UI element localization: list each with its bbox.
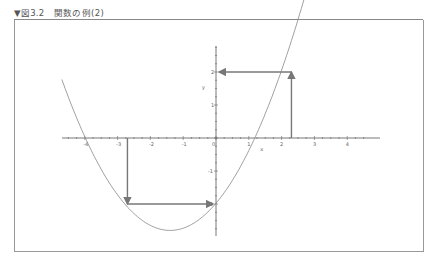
x-tick-label: 1 bbox=[247, 141, 250, 147]
parabola-curve bbox=[62, 0, 310, 230]
x-tick-label: -3 bbox=[116, 141, 121, 147]
y-axis-label: y bbox=[202, 84, 205, 91]
x-tick-label: 0 bbox=[212, 141, 215, 147]
x-tick-label: 3 bbox=[313, 141, 316, 147]
x-tick-label: -1 bbox=[182, 141, 187, 147]
x-tick-label: 4 bbox=[346, 141, 349, 147]
y-tick-label: -1 bbox=[208, 168, 213, 174]
x-axis-label: x bbox=[260, 146, 263, 152]
y-tick-label: 2 bbox=[211, 69, 214, 75]
function-plot: -4-3-2-10123421-1-2xy bbox=[0, 0, 432, 263]
x-tick-label: 2 bbox=[280, 141, 283, 147]
y-tick-label: 1 bbox=[211, 102, 214, 108]
x-tick-label: -2 bbox=[149, 141, 154, 147]
